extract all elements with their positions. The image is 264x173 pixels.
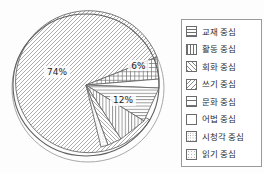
legend-item-0[interactable]: 교재 중심: [186, 23, 259, 41]
pie-label-horizontal: 12%: [113, 95, 133, 105]
legend-item-6[interactable]: 시청각 중심: [186, 128, 259, 146]
legend-label-2: 회화 중심: [202, 63, 236, 72]
pie-chart-svg: 74% 6% 12%: [0, 0, 178, 173]
legend-swatch-diagonal-forward-icon: [186, 61, 197, 72]
chart-legend: 교재 중심 활동 중심 회화 중심 쓰기 중심 문화 중심 어법 중심 시청각 …: [181, 19, 262, 167]
legend-swatch-dotted-icon: [186, 131, 197, 142]
legend-label-7: 읽기 중심: [202, 150, 236, 159]
legend-swatch-vertical-icon: [186, 44, 197, 55]
legend-swatch-cross-hatch-icon: [186, 96, 197, 107]
legend-label-0: 교재 중심: [202, 28, 236, 37]
legend-label-6: 시청각 중심: [202, 133, 244, 142]
legend-label-4: 문화 중심: [202, 98, 236, 107]
legend-label-1: 활동 중심: [202, 45, 236, 54]
pie-label-crosshatch: 6%: [131, 61, 146, 71]
legend-swatch-horizontal-icon: [186, 26, 197, 37]
legend-swatch-diagonal-back-icon: [186, 79, 197, 90]
legend-swatch-dotted-light-icon: [186, 149, 197, 160]
legend-label-5: 어법 중심: [202, 115, 236, 124]
legend-item-4[interactable]: 문화 중심: [186, 93, 259, 111]
pie-label-major: 74%: [47, 67, 67, 77]
legend-label-3: 쓰기 중심: [202, 80, 236, 89]
legend-item-5[interactable]: 어법 중심: [186, 111, 259, 129]
legend-item-3[interactable]: 쓰기 중심: [186, 76, 259, 94]
legend-swatch-blank-icon: [186, 114, 197, 125]
pie-chart-area: 74% 6% 12%: [0, 0, 178, 173]
legend-item-7[interactable]: 읽기 중심: [186, 146, 259, 164]
legend-item-1[interactable]: 활동 중심: [186, 41, 259, 59]
chart-figure: 74% 6% 12% 교재 중심 활동 중심 회화 중심 쓰기 중심: [0, 0, 264, 173]
legend-item-2[interactable]: 회화 중심: [186, 58, 259, 76]
